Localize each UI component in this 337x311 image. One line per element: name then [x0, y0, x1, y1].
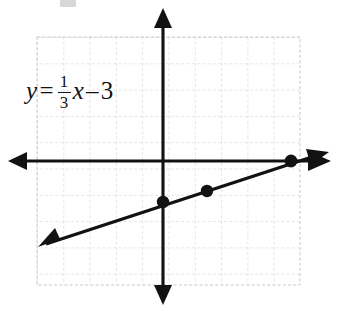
equation-variable: x: [73, 77, 84, 104]
equation-lhs: y: [26, 77, 37, 104]
x-axis-left-arrowhead: [8, 152, 27, 170]
y-axis-top-arrowhead: [154, 8, 172, 28]
equation-minus: –: [84, 77, 101, 104]
point-x-intercept: [285, 155, 298, 168]
coordinate-plane: [0, 0, 337, 311]
equation-label: y=13x–3: [26, 74, 114, 113]
graph-figure: y=13x–3: [0, 0, 337, 311]
fraction-denominator: 3: [58, 94, 71, 112]
point-mid: [201, 185, 213, 197]
equation-equals: =: [37, 77, 55, 104]
y-axis-bottom-arrowhead: [154, 285, 172, 305]
fraction-numerator: 1: [58, 73, 71, 91]
equation-constant: 3: [101, 77, 114, 104]
point-y-intercept: [157, 196, 169, 208]
equation-fraction: 13: [58, 73, 71, 112]
